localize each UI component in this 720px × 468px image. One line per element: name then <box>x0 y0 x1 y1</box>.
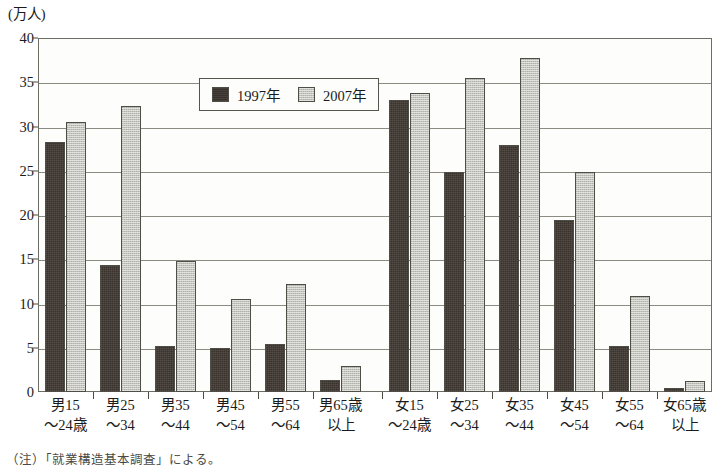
y-tick-label-30: 30 <box>4 119 34 134</box>
x-label-line1: 女35 <box>505 396 534 416</box>
y-tick-mark-40 <box>32 38 38 39</box>
x-label-line1: 男15 <box>44 396 87 416</box>
y-axis-unit-label: (万人) <box>8 2 46 23</box>
gridline-25 <box>39 172 711 173</box>
y-tick-label-20: 20 <box>4 208 34 223</box>
x-label-line1: 男45 <box>216 396 245 416</box>
y-tick-mark-5 <box>32 347 38 348</box>
y-tick-mark-20 <box>32 215 38 216</box>
x-axis-label-9: 女35～44 <box>505 396 534 435</box>
x-label-line2: ～24歳 <box>388 416 431 436</box>
x-tick-1 <box>93 392 94 399</box>
x-label-line2: ～64 <box>271 416 300 436</box>
gridline-15 <box>39 260 711 261</box>
x-label-line2: ～64 <box>615 416 644 436</box>
y-tick-mark-25 <box>32 170 38 171</box>
x-label-line2: ～24歳 <box>44 416 87 436</box>
y-tick-label-0: 0 <box>4 385 34 400</box>
y-tick-mark-10 <box>32 303 38 304</box>
x-tick-4 <box>258 392 259 399</box>
y-tick-label-5: 5 <box>4 341 34 356</box>
x-axis-label-4: 男45～54 <box>216 396 245 435</box>
x-tick-6 <box>382 392 383 399</box>
x-tick-2 <box>148 392 149 399</box>
x-tick-10 <box>602 392 603 399</box>
y-tick-mark-15 <box>32 259 38 260</box>
x-label-line1: 男55 <box>271 396 300 416</box>
x-tick-5 <box>313 392 314 399</box>
gridline-20 <box>39 216 711 217</box>
gridline-5 <box>39 349 711 350</box>
x-label-line1: 男65歳 <box>319 396 362 416</box>
x-axis-label-6: 男65歳以上 <box>319 396 362 435</box>
x-label-line2: 以上 <box>319 416 362 436</box>
x-axis-label-1: 男15～24歳 <box>44 396 87 435</box>
x-label-line1: 男35 <box>161 396 190 416</box>
y-tick-mark-30 <box>32 126 38 127</box>
legend-item-1997: 1997年 <box>212 84 280 105</box>
x-label-line1: 女55 <box>615 396 644 416</box>
x-label-line2: ～34 <box>106 416 135 436</box>
x-tick-8 <box>492 392 493 399</box>
y-tick-label-35: 35 <box>4 75 34 90</box>
x-tick-7 <box>437 392 438 399</box>
legend-swatch-1997-icon <box>212 87 229 102</box>
x-axis-label-3: 男35～44 <box>161 396 190 435</box>
x-axis-label-5: 男55～64 <box>271 396 300 435</box>
x-tick-9 <box>547 392 548 399</box>
x-tick-11 <box>657 392 658 399</box>
gridline-30 <box>39 128 711 129</box>
x-axis-label-2: 男25～34 <box>106 396 135 435</box>
source-note: （注）「就業構造基本調査」による。 <box>6 449 221 468</box>
x-label-line1: 女65歳 <box>663 396 706 416</box>
x-axis-label-8: 女25～34 <box>450 396 479 435</box>
x-axis-label-10: 女45～54 <box>560 396 589 435</box>
x-tick-3 <box>203 392 204 399</box>
x-label-line2: ～54 <box>216 416 245 436</box>
x-axis-label-7: 女15～24歳 <box>388 396 431 435</box>
x-label-line1: 女15 <box>388 396 431 416</box>
x-label-line2: ～54 <box>560 416 589 436</box>
x-label-line2: ～34 <box>450 416 479 436</box>
x-label-line2: 以上 <box>663 416 706 436</box>
x-axis-label-11: 女55～64 <box>615 396 644 435</box>
x-axis-label-12: 女65歳以上 <box>663 396 706 435</box>
legend-item-2007: 2007年 <box>298 84 366 105</box>
x-label-line1: 女25 <box>450 396 479 416</box>
y-tick-label-10: 10 <box>4 296 34 311</box>
x-label-line2: ～44 <box>505 416 534 436</box>
gridline-10 <box>39 305 711 306</box>
legend-swatch-2007-icon <box>298 87 315 102</box>
legend: 1997年 2007年 <box>199 78 379 111</box>
legend-label-2007: 2007年 <box>323 84 366 105</box>
y-tick-label-40: 40 <box>4 31 34 46</box>
x-label-line2: ～44 <box>161 416 190 436</box>
y-tick-label-15: 15 <box>4 252 34 267</box>
x-label-line1: 女45 <box>560 396 589 416</box>
x-label-line1: 男25 <box>106 396 135 416</box>
y-tick-label-25: 25 <box>4 164 34 179</box>
legend-label-1997: 1997年 <box>237 84 280 105</box>
y-tick-mark-35 <box>32 82 38 83</box>
